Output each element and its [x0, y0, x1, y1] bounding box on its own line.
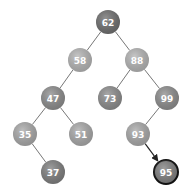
tree-node-35: 35: [13, 122, 37, 146]
tree-node-51: 51: [69, 122, 93, 146]
node-label: 62: [102, 18, 115, 28]
node-label: 93: [132, 130, 145, 140]
node-label: 51: [75, 130, 88, 140]
tree-edge: [60, 70, 73, 88]
node-label: 88: [131, 56, 144, 66]
tree-node-95: 95: [154, 160, 178, 184]
node-label: 47: [47, 94, 60, 104]
node-label: 99: [161, 94, 174, 104]
tree-edge: [117, 70, 130, 88]
search-path-arrow: [145, 144, 158, 161]
tree-node-73: 73: [98, 86, 122, 110]
tree-edge: [87, 32, 101, 51]
tree-edge: [146, 107, 160, 124]
node-label: 58: [74, 56, 87, 66]
node-label: 95: [160, 168, 173, 178]
tree-node-37: 37: [41, 160, 65, 184]
tree-node-62: 62: [96, 10, 120, 34]
node-label: 35: [19, 130, 32, 140]
tree-node-47: 47: [41, 86, 65, 110]
tree-node-93: 93: [126, 122, 150, 146]
tree-edge: [144, 69, 159, 88]
tree-nodes: 6258884773993551933795: [13, 10, 179, 184]
bst-diagram: 6258884773993551933795: [0, 0, 195, 195]
tree-node-88: 88: [125, 48, 149, 72]
tree-node-58: 58: [68, 48, 92, 72]
tree-edge: [32, 107, 45, 124]
tree-edge: [115, 32, 129, 51]
node-label: 37: [47, 168, 60, 178]
tree-edge: [32, 144, 46, 163]
tree-edge: [60, 107, 73, 124]
node-label: 73: [104, 94, 117, 104]
tree-node-99: 99: [155, 86, 179, 110]
